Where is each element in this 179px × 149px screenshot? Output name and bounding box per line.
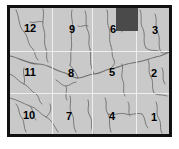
- dark-patch-highlight: [116, 8, 138, 31]
- zone-label-5: 5: [109, 67, 115, 78]
- zone-label-2: 2: [151, 68, 157, 79]
- zone-label-1: 1: [151, 112, 157, 123]
- grid-vertical-1: [52, 8, 53, 134]
- zone-label-7: 7: [66, 111, 72, 122]
- zone-label-4: 4: [109, 111, 115, 122]
- map-figure: 12 9 6 3 11 8 5 2 10 7 4 1: [0, 0, 179, 149]
- grid-horizontal-2: [10, 93, 169, 94]
- zone-label-3: 3: [152, 25, 158, 36]
- zone-label-9: 9: [69, 24, 75, 35]
- zone-label-12: 12: [24, 23, 36, 34]
- grid-vertical-2: [92, 8, 93, 134]
- zone-label-6: 6: [110, 24, 116, 35]
- zone-label-11: 11: [24, 67, 36, 78]
- zone-label-8: 8: [68, 68, 74, 79]
- zone-label-10: 10: [23, 110, 35, 121]
- grid-horizontal-1: [10, 51, 169, 52]
